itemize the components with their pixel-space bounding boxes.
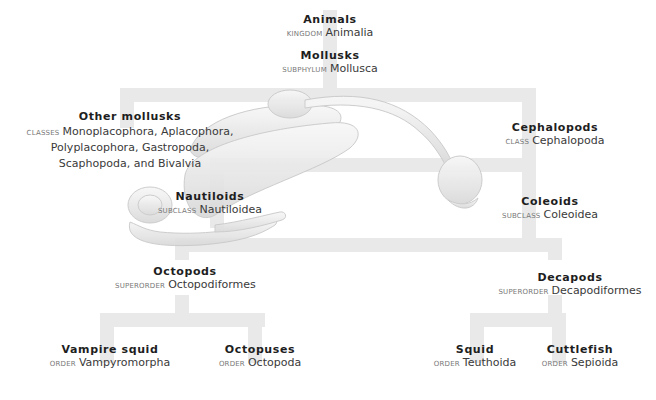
rank-label: Subclass [502, 212, 540, 220]
rank-label: Superorder [115, 282, 165, 290]
scientific-name: Decapodiformes [552, 284, 642, 297]
scientific-name: Octopoda [248, 356, 301, 369]
rank-label: Subphylum [282, 66, 327, 74]
node-decapods: Decapods SuperorderDecapodiformes [495, 272, 645, 297]
rank-label: Kingdom [287, 30, 323, 38]
node-squid: Squid OrderTeuthoida [430, 344, 520, 369]
node-cephalopods: Cephalopods ClassCephalopoda [495, 122, 615, 147]
scientific-name: Nautiloidea [199, 203, 262, 216]
scientific-name: Coleoidea [543, 208, 598, 221]
node-cuttlefish: Cuttlefish OrderSepioida [535, 344, 625, 369]
node-coleoids: Coleoids SubclassColeoidea [490, 196, 610, 221]
scientific-name: Sepioida [571, 356, 618, 369]
rank-label: Order [219, 360, 245, 368]
scientific-name: Animalia [325, 26, 373, 39]
rank-label: Class [506, 138, 530, 146]
scientific-name: Vampyromorpha [79, 356, 170, 369]
node-vampire-squid: Vampire squid OrderVampyromorpha [45, 344, 175, 369]
rank-label: Classes [27, 129, 60, 137]
scientific-name: Octopodiformes [168, 278, 256, 291]
scientific-name: Mollusca [330, 62, 378, 75]
rank-label: Order [50, 360, 76, 368]
rank-label: Subclass [158, 207, 196, 215]
node-octopuses: Octopuses OrderOctopoda [210, 344, 310, 369]
scientific-name-line-3: Scaphopoda, and Bivalvia [20, 156, 240, 172]
scientific-name: Teuthoida [463, 356, 516, 369]
rank-label: Superorder [498, 288, 548, 296]
node-animals: Animals KingdomAnimalia [280, 14, 380, 39]
node-nautiloids: Nautiloids SubclassNautiloidea [150, 191, 270, 216]
rank-label: Order [434, 360, 460, 368]
node-other-mollusks: Other mollusks ClassesMonoplacophora, Ap… [20, 111, 240, 171]
scientific-name-line-1: Monoplacophora, Aplacophora, [62, 125, 233, 138]
rank-label: Order [542, 360, 568, 368]
scientific-name: Cephalopoda [532, 134, 604, 147]
node-mollusks: Mollusks SubphylumMollusca [270, 50, 390, 75]
common-name: Other mollusks [20, 111, 240, 124]
scientific-name-line-2: Polyplacophora, Gastropoda, [20, 140, 240, 156]
node-octopods: Octopods SuperorderOctopodiformes [115, 266, 255, 291]
